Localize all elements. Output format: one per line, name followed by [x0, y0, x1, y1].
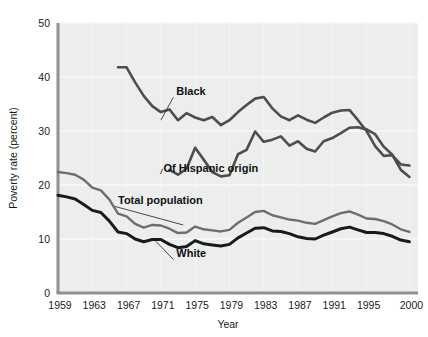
x-tick-label: 1967: [117, 299, 141, 311]
y-axis-title: Poverty rate (percent): [7, 107, 19, 209]
series-label-total-population: Total population: [118, 194, 203, 206]
x-tick-label: 1971: [151, 299, 175, 311]
x-axis-title: Year: [217, 318, 239, 330]
x-tick-label: 2000: [400, 299, 424, 311]
y-tick-label: 50: [38, 17, 50, 29]
x-tick-label: 1979: [220, 299, 244, 311]
x-tick-label: 1959: [48, 299, 72, 311]
series-label-of-hispanic-origin: Of Hispanic origin: [163, 162, 258, 174]
y-tick-label: 0: [44, 287, 50, 299]
x-axis-tick-labels: 1959196319671971197519791983198719911995…: [48, 299, 423, 311]
y-tick-label: 30: [38, 125, 50, 137]
series-label-black: Black: [176, 85, 206, 97]
x-tick-label: 1991: [323, 299, 347, 311]
y-tick-label: 10: [38, 233, 50, 245]
x-tick-label: 1963: [83, 299, 107, 311]
chart-canvas: 01020304050 1959196319671971197519791983…: [0, 0, 428, 337]
y-tick-label: 40: [38, 71, 50, 83]
series-label-white: White: [176, 247, 206, 259]
y-tick-label: 20: [38, 179, 50, 191]
x-tick-label: 1995: [357, 299, 381, 311]
plot-area-background: [58, 23, 418, 293]
x-tick-label: 1983: [254, 299, 278, 311]
poverty-rate-chart: 01020304050 1959196319671971197519791983…: [0, 0, 428, 337]
x-tick-label: 1975: [185, 299, 209, 311]
x-tick-label: 1987: [288, 299, 312, 311]
